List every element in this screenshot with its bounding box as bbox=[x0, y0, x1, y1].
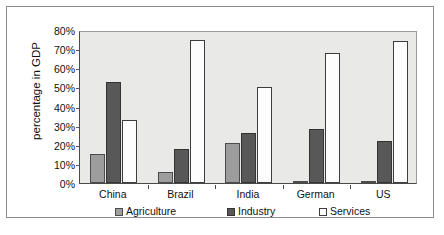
x-axis-label-us: US bbox=[349, 188, 417, 201]
y-axis-tick-label: 60% bbox=[35, 64, 75, 74]
y-axis-tick-label: 40% bbox=[35, 103, 75, 113]
x-axis-label-india: India bbox=[214, 188, 282, 201]
y-axis-tick-labels: 0%10%20%30%40%50%60%70%80% bbox=[35, 31, 75, 184]
y-axis-tick-label: 10% bbox=[35, 160, 75, 170]
bar-agriculture-german bbox=[293, 181, 308, 183]
bar-group bbox=[148, 32, 216, 183]
bar-services-us bbox=[393, 41, 408, 183]
figure: percentage in GDP 0%10%20%30%40%50%60%70… bbox=[0, 0, 444, 235]
legend-item-industry: Industry bbox=[227, 206, 275, 217]
y-axis-tick-label: 70% bbox=[35, 45, 75, 55]
bar-services-china bbox=[122, 120, 137, 183]
y-axis-tick-label: 50% bbox=[35, 83, 75, 93]
bar-agriculture-india bbox=[225, 143, 240, 183]
plot-area bbox=[79, 31, 417, 184]
y-axis-tick-label: 20% bbox=[35, 141, 75, 151]
legend-swatch-industry bbox=[227, 208, 235, 216]
bar-industry-india bbox=[241, 133, 256, 183]
legend-label-agriculture: Agriculture bbox=[126, 206, 176, 217]
x-axis-label-china: China bbox=[79, 188, 147, 201]
bar-group bbox=[80, 32, 148, 183]
bar-agriculture-china bbox=[90, 154, 105, 183]
legend-label-services: Services bbox=[330, 206, 370, 217]
x-axis-label-brazil: Brazil bbox=[147, 188, 215, 201]
chart-frame: percentage in GDP 0%10%20%30%40%50%60%70… bbox=[6, 6, 434, 218]
y-axis-tick-label: 30% bbox=[35, 122, 75, 132]
bar-agriculture-brazil bbox=[158, 172, 173, 183]
y-axis-tick-label: 0% bbox=[35, 179, 75, 189]
bar-services-german bbox=[325, 53, 340, 183]
legend-swatch-services bbox=[319, 208, 327, 216]
bars-layer bbox=[80, 32, 416, 183]
y-axis-tick-label: 80% bbox=[35, 26, 75, 36]
legend-swatch-agriculture bbox=[115, 208, 123, 216]
bar-group bbox=[350, 32, 418, 183]
bar-group bbox=[283, 32, 351, 183]
bar-services-india bbox=[257, 87, 272, 183]
bar-industry-german bbox=[309, 129, 324, 183]
legend-label-industry: Industry bbox=[238, 206, 275, 217]
bar-industry-us bbox=[377, 141, 392, 183]
x-axis-label-german: German bbox=[282, 188, 350, 201]
figure-caption bbox=[8, 226, 438, 235]
chart-legend: AgricultureIndustryServices bbox=[79, 206, 417, 221]
legend-item-services: Services bbox=[319, 206, 370, 217]
legend-item-agriculture: Agriculture bbox=[115, 206, 176, 217]
bar-services-brazil bbox=[190, 40, 205, 183]
bar-industry-brazil bbox=[174, 149, 189, 183]
bar-group bbox=[215, 32, 283, 183]
bar-agriculture-us bbox=[361, 181, 376, 183]
bar-industry-china bbox=[106, 82, 121, 183]
x-axis-category-labels: ChinaBrazilIndiaGermanUS bbox=[79, 188, 417, 204]
